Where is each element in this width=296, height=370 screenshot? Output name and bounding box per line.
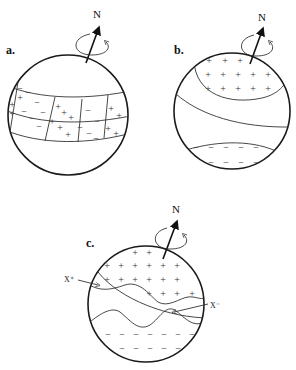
svg-text:+: + xyxy=(132,247,138,258)
svg-text:−: − xyxy=(175,343,181,354)
x-plus-label: X⁺ xyxy=(64,275,74,284)
svg-text:−: − xyxy=(253,142,259,153)
north-label-a: N xyxy=(93,8,101,20)
svg-text:+: + xyxy=(205,69,211,80)
svg-text:+: + xyxy=(250,83,256,94)
svg-text:−: − xyxy=(94,116,100,127)
svg-text:+: + xyxy=(189,288,195,299)
svg-text:+: + xyxy=(57,122,63,133)
svg-text:+: + xyxy=(132,274,138,285)
svg-text:−: − xyxy=(223,157,229,168)
svg-text:+: + xyxy=(222,55,228,66)
svg-text:+: + xyxy=(160,288,166,299)
svg-text:+: + xyxy=(174,274,180,285)
svg-text:+: + xyxy=(68,112,74,123)
svg-text:+: + xyxy=(174,288,180,299)
figure-canvas: a. N − + − + + − − − − xyxy=(0,0,296,370)
svg-text:−: − xyxy=(147,343,153,354)
svg-text:+: + xyxy=(65,129,71,140)
svg-text:−: − xyxy=(86,128,92,139)
svg-text:+: + xyxy=(116,110,122,121)
svg-text:+: + xyxy=(104,260,110,271)
svg-text:+: + xyxy=(146,288,152,299)
svg-text:−: − xyxy=(238,157,244,168)
svg-text:−: − xyxy=(25,87,31,98)
panel-label-c: c. xyxy=(86,236,94,250)
svg-text:−: − xyxy=(119,329,125,340)
svg-text:+: + xyxy=(146,274,152,285)
svg-text:+: + xyxy=(118,260,124,271)
svg-text:−: − xyxy=(85,105,91,116)
x-minus-marker: X⁻ xyxy=(174,301,220,312)
svg-text:−: − xyxy=(161,343,167,354)
svg-text:−: − xyxy=(40,107,46,118)
svg-text:+: + xyxy=(235,83,241,94)
svg-text:+: + xyxy=(146,260,152,271)
x-minus-label: X⁻ xyxy=(210,301,220,310)
svg-text:−: − xyxy=(21,106,27,117)
svg-text:+: + xyxy=(174,260,180,271)
svg-text:+: + xyxy=(118,274,124,285)
svg-text:−: − xyxy=(238,142,244,153)
north-axis-icon: N xyxy=(241,11,272,64)
svg-text:+: + xyxy=(113,128,119,139)
svg-text:+: + xyxy=(146,247,152,258)
svg-text:+: + xyxy=(132,260,138,271)
svg-text:−: − xyxy=(93,133,99,144)
svg-text:−: − xyxy=(133,329,139,340)
svg-text:−: − xyxy=(133,343,139,354)
svg-text:+: + xyxy=(235,69,241,80)
svg-text:+: + xyxy=(220,83,226,94)
svg-text:+: + xyxy=(105,123,111,134)
panel-label-a: a. xyxy=(6,43,15,57)
svg-text:−: − xyxy=(147,329,153,340)
svg-text:+: + xyxy=(237,55,243,66)
svg-text:−: − xyxy=(193,142,199,153)
positive-cap-boundary xyxy=(194,60,292,100)
svg-text:+: + xyxy=(17,92,23,103)
north-label-b: N xyxy=(258,11,266,23)
panel-c: c. N + + + + + + + + + + xyxy=(64,203,220,362)
svg-text:−: − xyxy=(208,142,214,153)
svg-text:+: + xyxy=(49,116,55,127)
north-label-c: N xyxy=(172,203,180,215)
svg-text:−: − xyxy=(189,329,195,340)
svg-text:+: + xyxy=(108,103,114,114)
svg-text:+: + xyxy=(220,69,226,80)
svg-text:+: + xyxy=(265,83,271,94)
svg-text:−: − xyxy=(253,157,259,168)
equatorial-band-a: − + − + + − − − − − + + + + + + − − − − … xyxy=(5,82,135,144)
svg-text:−: − xyxy=(36,121,42,132)
svg-text:+: + xyxy=(160,260,166,271)
north-axis-icon: N xyxy=(76,8,108,63)
sphere-b xyxy=(174,53,290,169)
middle-boundary xyxy=(176,94,292,127)
negative-band-boundary xyxy=(186,143,280,153)
svg-text:+: + xyxy=(61,107,67,118)
svg-text:−: − xyxy=(223,142,229,153)
svg-text:+: + xyxy=(205,83,211,94)
svg-text:−: − xyxy=(161,329,167,340)
panel-a: a. N − + − + + − − − − xyxy=(5,8,135,175)
svg-text:−: − xyxy=(119,343,125,354)
svg-text:+: + xyxy=(9,108,15,119)
svg-text:+: + xyxy=(160,274,166,285)
svg-text:−: − xyxy=(77,122,83,133)
north-axis-icon: N xyxy=(155,203,186,259)
svg-text:+: + xyxy=(104,274,110,285)
lower-wavy-boundary xyxy=(86,309,206,327)
panel-b: b. N + + + + + + + + + + xyxy=(174,11,292,169)
panel-label-b: b. xyxy=(174,43,184,57)
svg-text:+: + xyxy=(250,69,256,80)
svg-text:−: − xyxy=(175,329,181,340)
svg-text:+: + xyxy=(265,69,271,80)
svg-text:−: − xyxy=(105,329,111,340)
svg-text:−: − xyxy=(29,113,35,124)
